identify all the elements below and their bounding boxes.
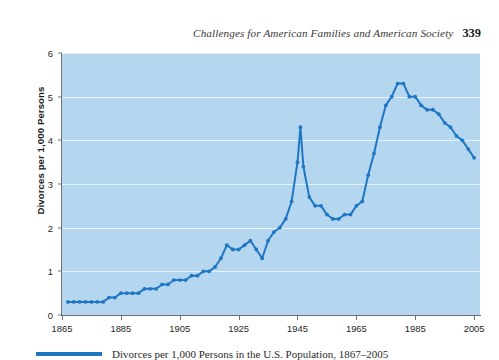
data-point (443, 121, 447, 125)
y-axis-tick: 1 (48, 266, 62, 277)
y-axis-tick-label: 5 (48, 91, 58, 102)
x-axis-tick-label: 2005 (464, 323, 485, 334)
data-point (366, 173, 370, 177)
data-point (331, 217, 335, 221)
figure-caption: Divorces per 1,000 Persons in the U.S. P… (36, 348, 496, 360)
data-point (460, 138, 464, 142)
data-point (84, 300, 88, 304)
data-point (113, 296, 117, 300)
data-point (425, 108, 429, 112)
data-point (337, 217, 341, 221)
x-axis-tick-mark (297, 316, 298, 320)
page-number: 339 (462, 26, 481, 41)
data-point (78, 300, 82, 304)
data-point (437, 112, 441, 116)
x-axis-line (61, 315, 481, 316)
data-point (466, 147, 470, 151)
data-point (207, 269, 211, 273)
x-axis-tick-mark (415, 316, 416, 320)
caption-text: Divorces per 1,000 Persons in the U.S. P… (112, 348, 388, 360)
data-point (319, 204, 323, 208)
data-point (166, 283, 170, 287)
data-point (190, 274, 194, 278)
data-point (313, 204, 317, 208)
data-point (307, 195, 311, 199)
data-point (95, 300, 99, 304)
y-axis-tick-label: 1 (48, 266, 58, 277)
data-point (107, 296, 111, 300)
data-point (272, 230, 276, 234)
data-point (101, 300, 105, 304)
data-point (301, 165, 305, 169)
x-axis-tick-label: 1925 (228, 323, 249, 334)
data-point (148, 287, 152, 291)
y-axis-tick: 5 (48, 91, 62, 102)
data-point (66, 300, 70, 304)
data-point (372, 152, 376, 156)
divorce-rate-line-chart: Divorces per 1,000 Persons 0123456 18651… (0, 45, 499, 356)
x-axis-tick-label: 1885 (110, 323, 131, 334)
x-axis-tick-label: 1945 (287, 323, 308, 334)
x-axis-tick-mark (474, 316, 475, 320)
x-axis-tick-label: 1865 (52, 323, 73, 334)
data-point (72, 300, 76, 304)
y-axis-tick-label: 6 (48, 48, 58, 59)
data-point (260, 256, 264, 260)
data-point (378, 125, 382, 129)
data-point (172, 278, 176, 282)
data-point (137, 291, 141, 295)
data-point (119, 291, 123, 295)
x-axis-tick-label: 1985 (405, 323, 426, 334)
data-point (243, 243, 247, 247)
data-point (299, 125, 303, 129)
x-axis-tick-mark (239, 316, 240, 320)
data-point (178, 278, 182, 282)
data-point (201, 269, 205, 273)
data-point (131, 291, 135, 295)
data-point (419, 104, 423, 108)
y-axis-tick-label: 0 (48, 310, 58, 321)
data-point (290, 200, 294, 204)
data-point (449, 125, 453, 129)
x-axis-tick-mark (121, 316, 122, 320)
y-axis-tick-label: 4 (48, 135, 58, 146)
data-point (125, 291, 129, 295)
data-point (284, 217, 288, 221)
data-point (384, 104, 388, 108)
y-axis-tick: 4 (48, 135, 62, 146)
y-axis-tick-label: 3 (48, 179, 58, 190)
series-divorce-rate (62, 53, 480, 315)
data-point (407, 95, 411, 99)
data-point (154, 287, 158, 291)
legend-swatch-icon (36, 352, 102, 356)
data-point (396, 82, 400, 86)
series-line (68, 84, 474, 302)
data-point (254, 248, 258, 252)
x-axis-tick-mark (62, 316, 63, 320)
data-point (225, 243, 229, 247)
data-point (390, 95, 394, 99)
data-point (266, 239, 270, 243)
y-axis-tick: 2 (48, 222, 62, 233)
data-point (455, 134, 459, 138)
y-axis-tick: 0 (48, 310, 62, 321)
data-point (278, 226, 282, 230)
data-point (143, 287, 147, 291)
data-point (349, 213, 353, 217)
data-point (237, 248, 241, 252)
data-point (296, 160, 300, 164)
data-point (219, 256, 223, 260)
data-point (431, 108, 435, 112)
data-point (472, 156, 476, 160)
data-point (184, 278, 188, 282)
data-point (213, 265, 217, 269)
data-point (343, 213, 347, 217)
data-point (160, 283, 164, 287)
data-point (90, 300, 94, 304)
x-axis-tick-label: 1965 (346, 323, 367, 334)
data-point (196, 274, 200, 278)
running-head: Challenges for American Families and Ame… (193, 26, 481, 41)
y-axis-title: Divorces per 1,000 Persons (35, 51, 46, 251)
data-point (402, 82, 406, 86)
y-axis-tick-label: 2 (48, 222, 58, 233)
